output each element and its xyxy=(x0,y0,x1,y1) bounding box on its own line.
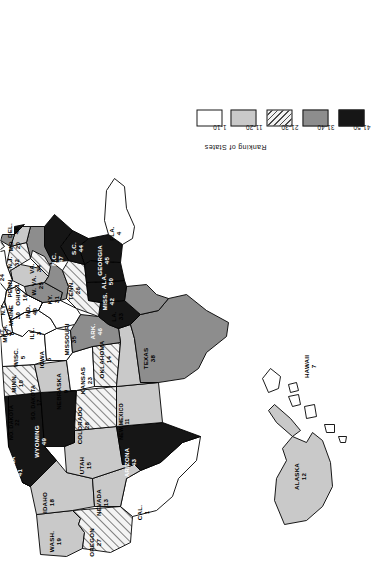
figure-page: WASH.19OREGON27CAL.1IDAHO18NEVADA13UTAH1… xyxy=(0,0,377,582)
legend-label-31-40: 31-40 xyxy=(317,123,334,130)
state-wyoming xyxy=(40,390,76,446)
state-north-dakota xyxy=(2,364,40,396)
state-alaska xyxy=(274,432,332,524)
state-hawaii-2 xyxy=(288,394,300,406)
legend-label-1-10: 1-10 xyxy=(212,123,226,130)
state-colorado xyxy=(74,386,116,430)
state-alabama xyxy=(84,260,124,282)
rotated-figure-group: WASH.19OREGON27CAL.1IDAHO18NEVADA13UTAH1… xyxy=(0,0,377,582)
state-new-mexico xyxy=(116,382,162,426)
state-hawaii-1 xyxy=(262,368,280,392)
state-hawaii-6 xyxy=(338,436,346,442)
state-hawaii-3 xyxy=(288,382,298,392)
state-kansas xyxy=(92,342,120,386)
map-legend: Ranking of States 1-10 11-20 21-30 31-40 xyxy=(196,4,356,144)
state-mississippi xyxy=(86,280,126,302)
state-hawaii-5 xyxy=(324,424,334,432)
state-washington xyxy=(36,510,84,556)
us-choropleth-map: WASH.19OREGON27CAL.1IDAHO18NEVADA13UTAH1… xyxy=(0,0,377,582)
legend-title: Ranking of States xyxy=(204,143,266,150)
state-hawaii-4 xyxy=(304,404,316,418)
state-alaska-panhandle xyxy=(268,404,300,436)
legend-label-41-50: 41-50 xyxy=(353,123,370,130)
legend-label-11-20: 11-20 xyxy=(245,123,262,130)
legend-label-21-30: 21-30 xyxy=(281,123,298,130)
state-florida xyxy=(104,178,134,244)
